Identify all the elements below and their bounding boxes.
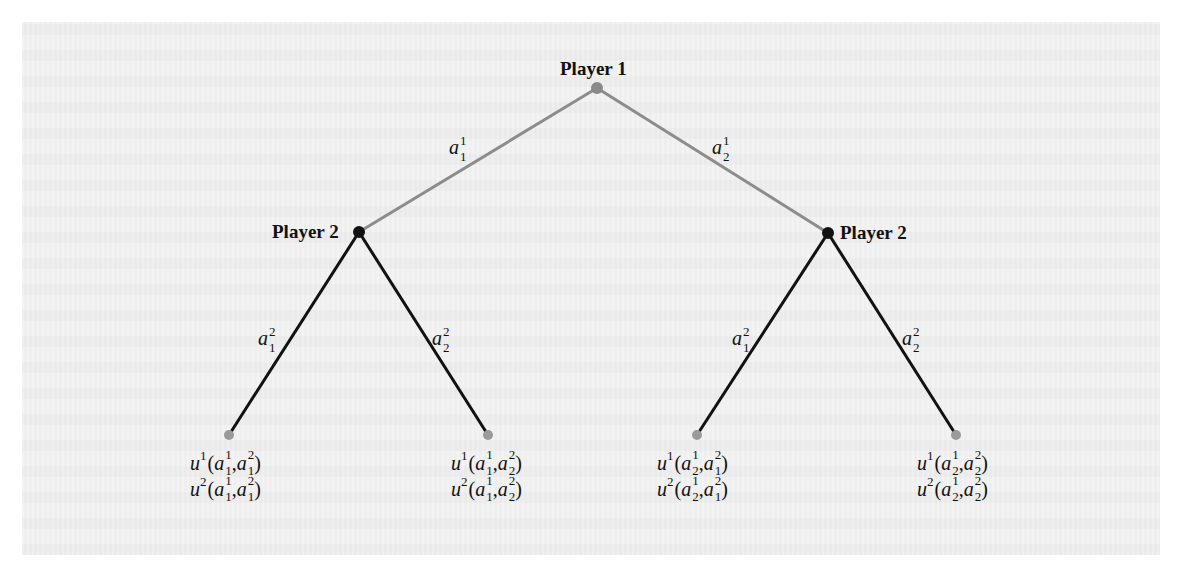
player2-left-node bbox=[353, 226, 365, 238]
action-label-p1-a2: a12 bbox=[712, 136, 730, 162]
payoff-leaf-3: u1(a12, a21) u2(a12, a21) bbox=[657, 450, 728, 502]
action-label-p2right-a2: a22 bbox=[902, 327, 920, 353]
player2-right-node bbox=[822, 227, 834, 239]
root-node bbox=[591, 82, 603, 94]
tree-edges-layer bbox=[0, 0, 1194, 582]
leaf-node-4 bbox=[951, 430, 961, 440]
player-1-label: Player 1 bbox=[560, 59, 627, 78]
edge-p2left-a1 bbox=[229, 232, 359, 435]
payoff-leaf-2: u1(a11, a22) u2(a11, a22) bbox=[451, 450, 522, 502]
edge-p1-a1 bbox=[359, 88, 597, 232]
payoff-leaf-1: u1(a11, a21) u2(a11, a21) bbox=[190, 450, 261, 502]
payoff-player-2: u2(a11, a22) bbox=[451, 476, 522, 502]
player-2-left-label: Player 2 bbox=[272, 222, 339, 241]
edge-p2right-a1 bbox=[697, 233, 828, 435]
payoff-leaf-4: u1(a12, a22) u2(a12, a22) bbox=[917, 450, 988, 502]
action-label-p2left-a2: a22 bbox=[432, 327, 450, 353]
action-label-p1-a1: a11 bbox=[449, 136, 467, 162]
payoff-player-2: u2(a11, a21) bbox=[190, 476, 261, 502]
action-label-p2right-a1: a21 bbox=[732, 327, 750, 353]
leaf-node-2 bbox=[483, 430, 493, 440]
player-2-right-label: Player 2 bbox=[840, 223, 907, 242]
payoff-player-2: u2(a12, a21) bbox=[657, 476, 728, 502]
game-tree-figure: Player 1 Player 2 Player 2 a11 a12 a21 a… bbox=[0, 0, 1194, 582]
edge-p2left-a2 bbox=[359, 232, 488, 435]
payoff-player-2: u2(a12, a22) bbox=[917, 476, 988, 502]
leaf-node-3 bbox=[692, 430, 702, 440]
edge-p2right-a2 bbox=[828, 233, 956, 435]
action-label-p2left-a1: a21 bbox=[258, 327, 276, 353]
leaf-node-1 bbox=[224, 430, 234, 440]
